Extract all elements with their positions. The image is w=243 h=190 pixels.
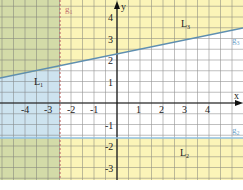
y-tick-label: 1 [108,77,113,88]
y-tick-label: 2 [108,55,113,66]
y-tick-label: -1 [105,120,113,131]
x-tick-labels: -4-3-2-11234 [21,104,210,115]
g2-label: g2 [232,125,240,136]
y-tick-label: -3 [105,163,113,174]
x-tick-label: 1 [136,104,141,115]
y-axis-label: y [121,1,126,12]
x-tick-label: 2 [159,104,164,115]
y-tick-label: 4 [108,12,113,23]
y-tick-label: 3 [108,34,113,45]
plot-canvas: -4-3-2-11234 4321-1-2-3 x y g1 g3 g2 L1 … [0,0,243,190]
coordinate-diagram: -4-3-2-11234 4321-1-2-3 x y g1 g3 g2 L1 … [0,0,243,190]
x-axis-label: x [234,90,239,101]
region-overlap-top [0,0,60,78]
region-overlap-bottom [0,138,60,180]
g3-label: g3 [232,35,240,46]
x-tick-label: 4 [205,104,210,115]
x-tick-label: -1 [90,104,98,115]
y-tick-label: -2 [105,141,113,152]
x-tick-label: -3 [44,104,52,115]
x-tick-label: -4 [21,104,29,115]
x-tick-label: -2 [67,104,75,115]
x-tick-label: 3 [182,104,187,115]
